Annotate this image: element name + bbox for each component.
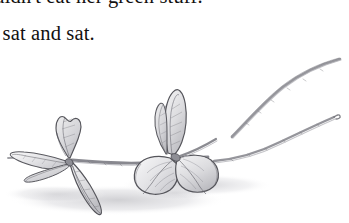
- branch-illustration: [0, 57, 349, 223]
- branch-illustration-svg: [0, 57, 349, 223]
- leaf-center-left: [134, 156, 178, 194]
- node-branch-link: [180, 139, 216, 156]
- leaf-center-upright-back: [155, 103, 167, 154]
- leaf-left-upper: [56, 117, 81, 158]
- text-line-2: e sat and sat.: [0, 22, 95, 45]
- lower-right-stem: [214, 115, 340, 163]
- book-page: wouldn't eat her green stuff. e sat and …: [0, 0, 349, 223]
- center-node: [171, 154, 180, 162]
- text-line-1: wouldn't eat her green stuff.: [0, 0, 203, 8]
- upper-right-stem: [231, 58, 341, 138]
- center-leaf-cluster: [134, 90, 218, 195]
